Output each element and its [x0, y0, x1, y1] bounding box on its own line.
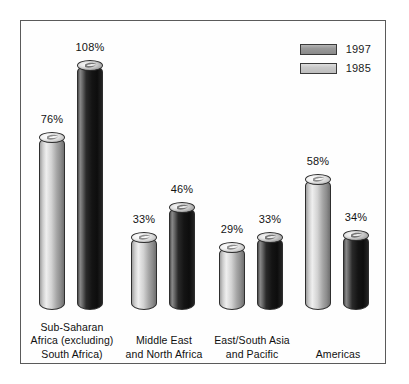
bar-1997-sub-saharan-africa[interactable]: 108%: [77, 60, 103, 310]
bar-value-label: 58%: [307, 155, 330, 167]
bar-value-label: 29%: [221, 223, 244, 235]
cylinder-body: [131, 237, 157, 310]
bar-value-label: 76%: [41, 113, 64, 125]
bar-pair: 58% 34%: [295, 60, 381, 310]
category-label-line: East/South Asia: [195, 334, 309, 348]
bar-1985-middle-east-north-africa[interactable]: 33%: [131, 232, 157, 310]
legend-label: 1985: [346, 62, 371, 74]
cap-highlight-icon: [311, 176, 326, 183]
legend-label: 1997: [346, 43, 371, 55]
cylinder-body: [169, 207, 195, 310]
cap-highlight-icon: [45, 134, 60, 141]
cylinder-body: [219, 247, 245, 310]
cap-highlight-icon: [83, 62, 98, 69]
bar-1997-middle-east-north-africa[interactable]: 46%: [169, 202, 195, 310]
legend-item-1985[interactable]: 1985: [300, 62, 371, 74]
legend-swatch-icon: [300, 63, 337, 74]
bar-value-label: 108%: [76, 41, 105, 53]
bar-1997-americas[interactable]: 34%: [343, 230, 369, 310]
cylinder-body: [257, 237, 283, 310]
bar-value-label: 33%: [259, 213, 282, 225]
legend: 1997 1985: [300, 43, 371, 74]
bar-pair: 29% 33%: [209, 60, 295, 310]
legend-swatch-icon: [300, 44, 337, 55]
bar-1985-east-south-asia-pacific[interactable]: 29%: [219, 242, 245, 310]
cylinder-body: [39, 137, 65, 310]
bar-value-label: 33%: [133, 213, 156, 225]
cylinder-body: [77, 65, 103, 310]
cap-highlight-icon: [263, 234, 278, 241]
bar-1997-east-south-asia-pacific[interactable]: 33%: [257, 232, 283, 310]
bar-1985-sub-saharan-africa[interactable]: 76%: [39, 132, 65, 310]
category-label-americas: Americas: [281, 348, 395, 362]
cylinder-body: [305, 179, 331, 310]
cap-highlight-icon: [225, 244, 240, 251]
bar-pair: 76% 108%: [29, 60, 115, 310]
cap-highlight-icon: [137, 234, 152, 241]
cap-highlight-icon: [175, 204, 190, 211]
cylinder-body: [343, 235, 369, 310]
bar-1985-americas[interactable]: 58%: [305, 174, 331, 310]
cap-highlight-icon: [349, 232, 364, 239]
legend-item-1997[interactable]: 1997: [300, 43, 371, 55]
bar-pair: 33% 46%: [121, 60, 207, 310]
category-label-line: Sub-Saharan: [15, 321, 129, 335]
bar-value-label: 34%: [345, 211, 368, 223]
bar-value-label: 46%: [171, 183, 194, 195]
category-label-line: Americas: [281, 348, 395, 362]
chart-frame: 76% 108%: [20, 20, 386, 364]
